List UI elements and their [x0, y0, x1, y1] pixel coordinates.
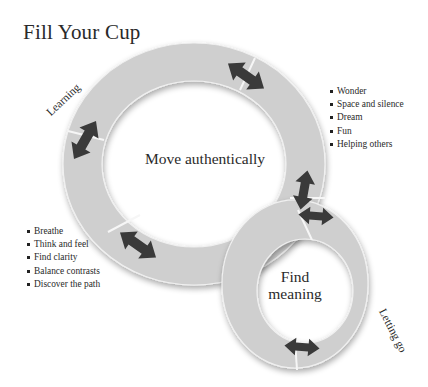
list-item: Space and silence: [330, 98, 404, 111]
cycle-diagram: [0, 0, 428, 387]
list-item: Think and feel: [27, 238, 100, 251]
small-cycle-label-line1: Find: [260, 268, 330, 285]
list-item: Wonder: [330, 85, 404, 98]
right-bullet-list: Wonder Space and silence Dream Fun Helpi…: [330, 85, 404, 151]
main-cycle-label: Move authentically: [130, 150, 280, 168]
list-item: Breathe: [27, 225, 100, 238]
list-item: Balance contrasts: [27, 265, 100, 278]
list-item: Fun: [330, 125, 404, 138]
list-item: Dream: [330, 111, 404, 124]
small-cycle-label: Find meaning: [260, 268, 330, 302]
list-item: Discover the path: [27, 278, 100, 291]
list-item: Helping others: [330, 138, 404, 151]
list-item: Find clarity: [27, 251, 100, 264]
small-cycle-label-line2: meaning: [260, 285, 330, 302]
left-bullet-list: Breathe Think and feel Find clarity Bala…: [27, 225, 100, 291]
